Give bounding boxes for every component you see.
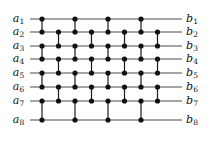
comparator-node: [72, 98, 77, 103]
label-subscript: 8: [20, 118, 25, 127]
comparator-node: [72, 70, 77, 75]
label-subscript: 8: [193, 118, 198, 127]
label-subscript: 3: [193, 44, 198, 53]
comparator-node: [105, 98, 110, 103]
label-subscript: 4: [193, 57, 198, 66]
comparator-node: [155, 98, 160, 103]
label-subscript: 6: [20, 85, 25, 94]
output-label-b1: b1: [186, 13, 198, 24]
label-base: b: [186, 52, 193, 65]
comparator-node: [39, 117, 44, 122]
comparator-node: [56, 98, 61, 103]
comparator-node: [122, 56, 127, 61]
input-label-a6: a6: [13, 81, 24, 92]
comparator-node: [56, 43, 61, 48]
comparator-node: [72, 84, 77, 89]
comparator-node: [39, 43, 44, 48]
comparator-node: [89, 43, 94, 48]
comparator-node: [56, 56, 61, 61]
comparator-node: [122, 43, 127, 48]
comparator-node: [105, 117, 110, 122]
comparator-node: [39, 70, 44, 75]
comparator-node: [155, 70, 160, 75]
input-label-a2: a2: [13, 26, 24, 37]
label-base: a: [13, 12, 20, 25]
comparator-node: [138, 117, 143, 122]
output-label-b3: b3: [186, 40, 198, 51]
label-base: a: [13, 113, 20, 126]
comparator-node: [105, 16, 110, 21]
label-subscript: 1: [193, 17, 198, 26]
comparator-node: [56, 84, 61, 89]
comparator-node: [155, 56, 160, 61]
wire-lines: [30, 19, 182, 120]
label-base: a: [13, 25, 20, 38]
label-base: b: [186, 39, 193, 52]
output-label-b2: b2: [186, 26, 198, 37]
comparator-node: [138, 43, 143, 48]
label-subscript: 4: [20, 57, 25, 66]
input-label-a3: a3: [13, 40, 24, 51]
network-diagram: [0, 0, 213, 153]
comparator-node: [89, 56, 94, 61]
label-base: a: [13, 39, 20, 52]
label-subscript: 2: [20, 30, 25, 39]
comparator-node: [155, 43, 160, 48]
comparator-node: [72, 29, 77, 34]
comparator-node: [72, 16, 77, 21]
label-subscript: 7: [193, 99, 198, 108]
comparator-node: [138, 56, 143, 61]
comparator-node: [138, 29, 143, 34]
output-label-b5: b5: [186, 67, 198, 78]
label-base: a: [13, 94, 20, 107]
output-label-b4: b4: [186, 53, 198, 64]
comparator-node: [138, 98, 143, 103]
label-base: b: [186, 113, 193, 126]
comparator-node: [105, 29, 110, 34]
output-label-b8: b8: [186, 114, 198, 125]
comparator-node: [105, 84, 110, 89]
comparator-node: [155, 84, 160, 89]
comparator-node: [122, 70, 127, 75]
label-base: b: [186, 80, 193, 93]
comparator-node: [56, 70, 61, 75]
comparator-node: [138, 84, 143, 89]
label-base: a: [13, 66, 20, 79]
comparator-node: [122, 29, 127, 34]
label-subscript: 5: [20, 71, 25, 80]
label-base: b: [186, 94, 193, 107]
comparator-node: [39, 98, 44, 103]
comparator-node: [72, 43, 77, 48]
comparator-node: [39, 56, 44, 61]
label-base: b: [186, 66, 193, 79]
comparator-node: [155, 29, 160, 34]
comparator-node: [105, 56, 110, 61]
label-subscript: 6: [193, 85, 198, 94]
label-base: b: [186, 12, 193, 25]
comparator-node: [39, 84, 44, 89]
sorting-network-figure: a1a2a3a4a5a6a7a8 b1b2b3b4b5b6b7b8: [0, 0, 213, 153]
comparator-node: [56, 29, 61, 34]
comparator-node: [138, 16, 143, 21]
label-subscript: 1: [20, 17, 25, 26]
label-base: a: [13, 80, 20, 93]
input-label-a1: a1: [13, 13, 24, 24]
comparator-node: [39, 16, 44, 21]
label-subscript: 7: [20, 99, 25, 108]
comparator-node: [89, 29, 94, 34]
input-label-a8: a8: [13, 114, 24, 125]
input-label-a7: a7: [13, 95, 24, 106]
comparator-node: [122, 84, 127, 89]
input-label-a5: a5: [13, 67, 24, 78]
label-subscript: 5: [193, 71, 198, 80]
comparator-node: [39, 29, 44, 34]
output-label-b6: b6: [186, 81, 198, 92]
comparator-node: [72, 117, 77, 122]
output-label-b7: b7: [186, 95, 198, 106]
input-label-a4: a4: [13, 53, 24, 64]
comparator-node: [89, 84, 94, 89]
comparator-node: [105, 70, 110, 75]
label-subscript: 2: [193, 30, 198, 39]
label-base: b: [186, 25, 193, 38]
label-subscript: 3: [20, 44, 25, 53]
